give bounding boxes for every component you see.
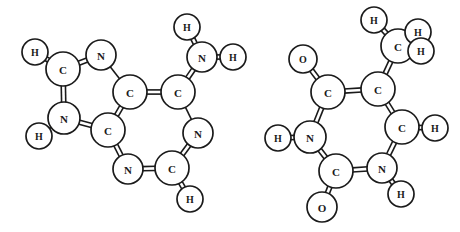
atom-L-N15-n: N xyxy=(113,154,143,184)
bond-L-C7-L-C8 xyxy=(146,90,162,94)
atom-L-N3-n: N xyxy=(86,40,116,70)
atom-circle xyxy=(22,39,48,65)
atom-circle xyxy=(422,115,448,141)
atom-circle xyxy=(26,123,52,149)
atom-circle xyxy=(91,113,125,147)
atom-L-C2-c: C xyxy=(46,52,80,86)
atom-circle xyxy=(161,75,195,109)
atom-R-C8-c: C xyxy=(385,110,419,144)
atom-circle xyxy=(265,125,291,151)
atom-R-N10-n: N xyxy=(294,121,326,153)
atom-R-C14-c: C xyxy=(319,154,353,188)
atom-L-N4-n: N xyxy=(48,102,80,134)
atom-R-O5-o: O xyxy=(289,45,317,73)
atom-L-N12-n: N xyxy=(183,118,213,148)
atom-circle xyxy=(187,42,217,72)
atom-R-N12-n: N xyxy=(367,153,397,183)
atom-circle xyxy=(307,192,337,222)
atom-L-H14-h: H xyxy=(177,186,203,212)
atom-L-H5-h: H xyxy=(26,123,52,149)
atom-R-H11-h: H xyxy=(265,125,291,151)
atom-circle xyxy=(289,45,317,73)
atom-circle xyxy=(319,154,353,188)
atom-L-N9-n: N xyxy=(187,42,217,72)
atom-circle xyxy=(385,110,419,144)
atom-L-H10-h: H xyxy=(174,14,200,40)
atom-L-H1-h: H xyxy=(22,39,48,65)
atom-circle xyxy=(361,72,395,106)
atom-circle xyxy=(155,151,189,185)
atom-R-O15-o: O xyxy=(307,192,337,222)
atom-circle xyxy=(113,75,147,109)
atom-circle xyxy=(113,154,143,184)
atom-R-H13-h: H xyxy=(388,181,414,207)
bond-L-C2-L-N4 xyxy=(61,85,66,103)
bond-L-C8-L-N12 xyxy=(185,106,192,120)
atom-circle xyxy=(48,102,80,134)
atom-L-C8-c: C xyxy=(161,75,195,109)
molecule-canvas: HCNNHCCCNHHNCHNHCHHOCCCHNHNHCO xyxy=(0,0,460,232)
atom-L-C6-c: C xyxy=(91,113,125,147)
atom-R-C6-c: C xyxy=(311,75,345,109)
atom-circle xyxy=(183,118,213,148)
bond-L-N3-L-C7 xyxy=(110,66,120,79)
atom-L-H11-h: H xyxy=(220,44,246,70)
atom-circle xyxy=(388,181,414,207)
bond-L-C13-L-N15 xyxy=(142,166,156,171)
atom-circle xyxy=(294,121,326,153)
atom-R-C7-c: C xyxy=(361,72,395,106)
atom-R-H1-h: H xyxy=(361,7,387,33)
atom-circle xyxy=(367,153,397,183)
atom-L-C13-c: C xyxy=(155,151,189,185)
bond-R-C6-R-C7 xyxy=(344,88,362,93)
atom-circle xyxy=(408,38,434,64)
molecular-diagram: HCNNHCCCNHHNCHNHCHHOCCCHNHNHCO xyxy=(0,0,460,232)
atom-circle xyxy=(220,44,246,70)
bond-R-C14-R-N12 xyxy=(352,167,368,172)
atom-R-H9-h: H xyxy=(422,115,448,141)
molecule-right-atoms: HCHHOCCCHNHNHCO xyxy=(265,7,448,222)
atom-circle xyxy=(177,186,203,212)
atom-circle xyxy=(174,14,200,40)
atom-circle xyxy=(311,75,345,109)
atom-circle xyxy=(46,52,80,86)
atom-circle xyxy=(86,40,116,70)
atom-circle xyxy=(361,7,387,33)
molecule-left-atoms: HCNNHCCCNHHNCHN xyxy=(22,14,246,212)
atom-R-H4-h: H xyxy=(408,38,434,64)
atom-layer: HCNNHCCCNHHNCHNHCHHOCCCHNHNHCO xyxy=(22,7,448,222)
atom-L-C7-c: C xyxy=(113,75,147,109)
